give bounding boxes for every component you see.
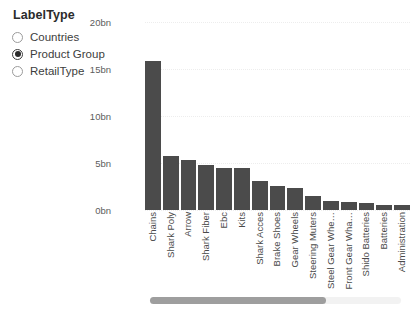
bar[interactable]	[359, 203, 375, 210]
radio-label: Countries	[30, 31, 79, 44]
x-axis-tick-label: Gear Wheels	[290, 212, 300, 267]
y-axis-tick-label: 0bn	[71, 205, 111, 216]
x-label-slot: Kits	[234, 212, 250, 288]
bar-slot	[341, 22, 357, 210]
x-axis-tick-label: Administration	[397, 212, 407, 272]
bar[interactable]	[216, 168, 232, 210]
bar-slot	[287, 22, 303, 210]
x-axis-tick-label: Brake Shoes	[272, 212, 282, 266]
bar-slot	[252, 22, 268, 210]
bar[interactable]	[181, 160, 197, 210]
x-axis-tick-label: Steel Gear Whe…	[326, 212, 336, 289]
x-axis-tick-label: Shark Acces	[255, 212, 265, 265]
bar[interactable]	[163, 156, 179, 210]
x-axis-tick-label: Ebc	[219, 212, 229, 228]
x-label-slot: Arrow	[181, 212, 197, 288]
bar-series	[145, 22, 410, 210]
bar-slot	[145, 22, 161, 210]
bar-slot	[270, 22, 286, 210]
radio-option-product-group[interactable]: Product Group	[12, 46, 105, 62]
labeltype-slicer-panel: LabelType Countries Product Group Retail…	[0, 0, 118, 90]
bar-slot	[394, 22, 410, 210]
x-axis-tick-label: Shark Poly	[166, 212, 176, 258]
bar-slot	[323, 22, 339, 210]
x-axis-tick-label: Steering Muters	[308, 212, 318, 279]
y-axis-tick-label: 15bn	[71, 64, 111, 75]
bar[interactable]	[341, 202, 357, 210]
bar[interactable]	[287, 188, 303, 210]
bar[interactable]	[270, 186, 286, 210]
bar-slot	[163, 22, 179, 210]
bar-slot	[234, 22, 250, 210]
x-label-slot: Steel Gear Whe…	[323, 212, 339, 288]
bar[interactable]	[252, 181, 268, 210]
y-axis-tick-label: 5bn	[71, 158, 111, 169]
bar-slot	[198, 22, 214, 210]
bar[interactable]	[323, 201, 339, 210]
x-axis-tick-label: Shark Fiber	[201, 212, 211, 261]
x-label-slot: Ebc	[216, 212, 232, 288]
scrollbar-thumb[interactable]	[150, 297, 326, 304]
slicer-title: LabelType	[13, 8, 75, 22]
bar-slot	[359, 22, 375, 210]
x-label-slot: Shark Fiber	[198, 212, 214, 288]
bar-slot	[216, 22, 232, 210]
bar-chart: 0bn5bn10bn15bn20bn ChainsShark PolyArrow…	[112, 0, 410, 320]
x-label-slot: Steering Muters	[305, 212, 321, 288]
x-axis-tick-label: Front Gear Wha…	[344, 212, 354, 290]
x-axis-tick-label: Chains	[148, 212, 158, 242]
bar[interactable]	[305, 196, 321, 210]
x-label-slot: Shark Acces	[252, 212, 268, 288]
radio-selected-icon[interactable]	[12, 49, 23, 60]
radio-icon[interactable]	[12, 32, 23, 43]
x-axis-tick-label: Batteries	[379, 212, 389, 250]
bar-slot	[376, 22, 392, 210]
bar[interactable]	[145, 61, 161, 210]
bar[interactable]	[394, 205, 410, 210]
radio-option-countries[interactable]: Countries	[12, 29, 79, 45]
x-axis-labels: ChainsShark PolyArrowShark FiberEbcKitsS…	[145, 212, 410, 288]
y-axis-tick-label: 10bn	[71, 111, 111, 122]
x-label-slot: Administration	[394, 212, 410, 288]
x-label-slot: Shido Batteries	[359, 212, 375, 288]
x-label-slot: Shark Poly	[163, 212, 179, 288]
x-axis-tick-label: Kits	[237, 212, 247, 228]
bar[interactable]	[234, 168, 250, 210]
bar-slot	[181, 22, 197, 210]
bar[interactable]	[198, 165, 214, 210]
x-label-slot: Gear Wheels	[287, 212, 303, 288]
plot-area: 0bn5bn10bn15bn20bn	[145, 22, 410, 210]
x-label-slot: Batteries	[376, 212, 392, 288]
radio-label: Product Group	[30, 48, 105, 61]
x-axis-tick-label: Shido Batteries	[361, 212, 371, 276]
radio-icon[interactable]	[12, 66, 23, 77]
y-axis-tick-label: 20bn	[71, 17, 111, 28]
horizontal-scrollbar[interactable]	[150, 297, 401, 304]
x-label-slot: Front Gear Wha…	[341, 212, 357, 288]
x-label-slot: Chains	[145, 212, 161, 288]
x-label-slot: Brake Shoes	[270, 212, 286, 288]
bar[interactable]	[376, 205, 392, 210]
x-axis-tick-label: Arrow	[183, 212, 193, 237]
bar-slot	[305, 22, 321, 210]
